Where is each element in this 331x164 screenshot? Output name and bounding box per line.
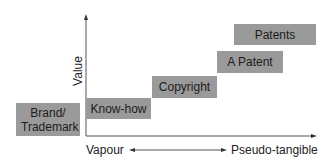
box-label: A Patent: [227, 55, 272, 69]
box-label: Copyright: [159, 80, 210, 94]
box-label: Know-how: [90, 102, 146, 116]
y-axis-label: Value: [71, 51, 85, 91]
box-copyright: Copyright: [152, 76, 217, 98]
box-patents: Patents: [234, 24, 316, 45]
x-axis-right-label: Pseudo-tangible: [231, 143, 318, 157]
box-label: Brand/ Trademark: [21, 106, 75, 134]
box-a-patent: A Patent: [217, 51, 283, 73]
x-axis-left-label: Vapour: [86, 143, 124, 157]
box-brand-trademark: Brand/ Trademark: [16, 103, 80, 136]
box-label: Patents: [255, 28, 296, 42]
box-know-how: Know-how: [86, 98, 151, 119]
